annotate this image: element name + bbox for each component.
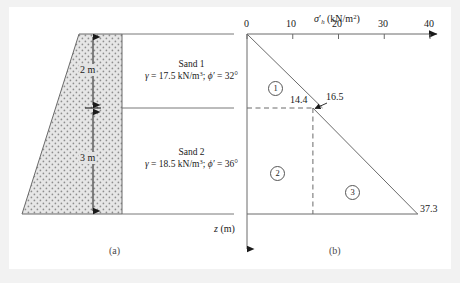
phi-value-2: 36 xyxy=(225,159,235,169)
dimension-label-3m: 3 m xyxy=(79,152,96,164)
equals-phi-2: = xyxy=(217,159,222,169)
leader-arrow-16-5 xyxy=(315,103,327,109)
figure-container: 2 m 3 m Sand 1 γ = 17.5 kN/m3; ϕ′ = 32° … xyxy=(0,0,460,283)
semicolon-1: ; xyxy=(203,71,206,81)
area-marker-1: 1 xyxy=(268,81,283,96)
gamma-value-1: 17.5 xyxy=(159,71,176,81)
gamma-value-2: 18.5 xyxy=(159,159,176,169)
equals-2: = xyxy=(151,159,156,169)
soil-layer-2-name: Sand 2 xyxy=(134,147,249,158)
dimension-label-2m: 2 m xyxy=(79,64,96,76)
pressure-line-sand1 xyxy=(247,34,323,108)
pressure-line-sand2 xyxy=(313,108,418,214)
equals-phi-1: = xyxy=(217,71,222,81)
gamma-units-1: kN/m xyxy=(178,71,200,81)
caption-a: (a) xyxy=(109,245,120,257)
phi-symbol-1: ϕ′ xyxy=(208,71,215,81)
pressure-label-16-5: 16.5 xyxy=(326,91,344,103)
soil-layer-2-properties: γ = 18.5 kN/m3; ϕ′ = 36° xyxy=(134,158,249,170)
caption-b: (b) xyxy=(329,245,341,257)
soil-layer-1-name: Sand 1 xyxy=(134,59,249,70)
pressure-label-37-3: 37.3 xyxy=(420,203,438,215)
x-tick-label-40: 40 xyxy=(424,18,434,30)
soil-layer-2-block: Sand 2 γ = 18.5 kN/m3; ϕ′ = 36° xyxy=(134,147,249,170)
soil-layer-1-properties: γ = 17.5 kN/m3; ϕ′ = 32° xyxy=(134,70,249,82)
equals-1: = xyxy=(151,71,156,81)
x-tick-label-0: 0 xyxy=(244,18,249,30)
area-marker-2: 2 xyxy=(270,166,285,181)
soil-wedge-group xyxy=(22,34,122,214)
gamma-symbol-2: γ xyxy=(145,159,149,169)
gamma-symbol-1: γ xyxy=(145,71,149,81)
gamma-units-2: kN/m xyxy=(178,159,200,169)
x-tick-label-10: 10 xyxy=(286,18,296,30)
figure-panel: 2 m 3 m Sand 1 γ = 17.5 kN/m3; ϕ′ = 32° … xyxy=(9,7,451,269)
x-tick-label-20: 20 xyxy=(332,18,342,30)
sigma-axis-ticks xyxy=(247,34,430,39)
degree-1: ° xyxy=(234,71,238,81)
pressure-label-14-4: 14.4 xyxy=(290,94,308,106)
z-unit: (m) xyxy=(220,223,234,234)
z-symbol: z xyxy=(214,223,218,234)
sigma-units-close: ) xyxy=(357,13,360,24)
soil-layer-1-block: Sand 1 γ = 17.5 kN/m3; ϕ′ = 32° xyxy=(134,59,249,82)
phi-symbol-2: ϕ′ xyxy=(208,159,215,169)
depth-axis-title: z (m) xyxy=(214,223,235,235)
phi-value-1: 32 xyxy=(225,71,235,81)
x-tick-label-30: 30 xyxy=(378,18,388,30)
degree-2: ° xyxy=(234,159,238,169)
semicolon-2: ; xyxy=(203,159,206,169)
soil-wedge-shape xyxy=(22,34,122,214)
area-marker-3: 3 xyxy=(345,185,360,200)
sigma-subscript-h: h xyxy=(321,18,324,25)
